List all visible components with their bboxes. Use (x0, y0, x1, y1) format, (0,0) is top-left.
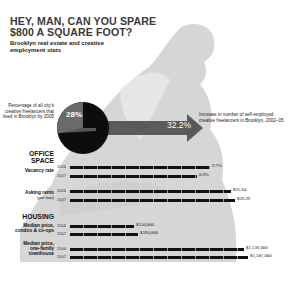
asking-rents-label: Asking rents (per foot) (2, 190, 54, 200)
year-label: 2006 (57, 164, 66, 169)
pie-value-label: 28% (66, 110, 82, 119)
chart-subtitle: Brooklyn real estate and creative employ… (10, 40, 104, 54)
bar-rents-2006 (70, 190, 231, 193)
bar-condo-2007 (70, 233, 138, 236)
year-label: 2007 (57, 231, 66, 236)
pie-chart (56, 101, 110, 155)
arrow-caption: Increase in number of self-employed crea… (199, 112, 284, 123)
value-rents-2006: $25.64 (233, 187, 246, 192)
section-office-line1: OFFICE (2, 150, 54, 157)
section-office-line2: SPACE (2, 157, 54, 164)
section-housing: HOUSING (2, 213, 54, 220)
bar-townhouse-2007 (70, 256, 248, 259)
townhouse-label-line3: townhouse (2, 251, 54, 256)
year-label: 2007 (57, 197, 66, 202)
value-vacancy-2006: 9.7% (212, 163, 222, 168)
pie-caption: Percentage of all city's creative freela… (2, 103, 54, 120)
year-label: 2006 (57, 188, 66, 193)
year-label: 2007 (57, 254, 66, 259)
subtitle-line-2: employment stats (10, 47, 104, 54)
arrow-value-label: 32.2% (167, 120, 191, 130)
bar-townhouse-2006 (70, 248, 244, 251)
section-office-space: OFFICE SPACE (2, 150, 54, 164)
bar-condo-2006 (70, 225, 134, 228)
bar-vacancy-2006 (70, 166, 210, 169)
value-condo-2007: $590,000 (140, 230, 158, 235)
year-label: 2007 (57, 173, 66, 178)
vacancy-rate-label: Vacancy rate (2, 168, 54, 173)
townhouse-label: Median price, one-family townhouse (2, 241, 54, 257)
value-rents-2007: $26.29 (237, 196, 250, 201)
value-townhouse-2006: $1,536,000 (246, 245, 268, 250)
value-condo-2006: $550,000 (136, 222, 154, 227)
value-townhouse-2007: $1,581,000 (250, 253, 272, 258)
bar-vacancy-2007 (70, 175, 197, 178)
condo-label: Median price, condos & co-ops (2, 223, 54, 233)
title-line-2: $800 A SQUARE FOOT? (10, 27, 156, 38)
value-vacancy-2007: 8.9% (199, 172, 209, 177)
asking-rents-sublabel: (per foot) (2, 195, 54, 200)
condo-label-line2: condos & co-ops (2, 228, 54, 233)
year-label: 2006 (57, 223, 66, 228)
chart-title: HEY, MAN, CAN YOU SPARE $800 A SQUARE FO… (10, 16, 156, 38)
bar-rents-2007 (70, 199, 235, 202)
year-label: 2006 (57, 246, 66, 251)
subtitle-line-1: Brooklyn real estate and creative (10, 40, 104, 47)
